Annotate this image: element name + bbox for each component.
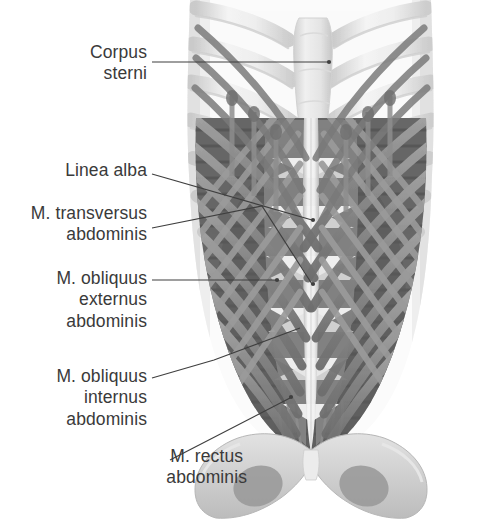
label-corpus-sterni: Corpus sterni bbox=[90, 42, 147, 85]
label-m-rectus-abdominis: M. rectus abdominis bbox=[166, 446, 247, 489]
label-m-obliquus-internus-abdominis: M. obliquus internus abdominis bbox=[56, 366, 147, 430]
anatomy-figure: Corpus sterni Linea alba M. transversus … bbox=[0, 0, 492, 520]
label-m-obliquus-externus-abdominis: M. obliquus externus abdominis bbox=[56, 268, 147, 332]
label-m-transversus-abdominis: M. transversus abdominis bbox=[31, 203, 147, 246]
label-linea-alba: Linea alba bbox=[65, 160, 147, 181]
anatomy-illustration bbox=[0, 0, 492, 520]
